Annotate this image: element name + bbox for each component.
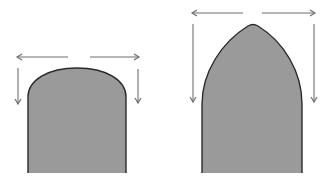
arch-thrust-diagram: Comparison of a round arch and a pointed…: [0, 0, 330, 185]
diagram-canvas: [0, 0, 330, 185]
pointed-arch-figure: [192, 13, 315, 173]
round-arch-figure: [17, 57, 139, 173]
round-arch-shape: [28, 68, 126, 173]
pointed-arch-shape: [202, 25, 302, 174]
